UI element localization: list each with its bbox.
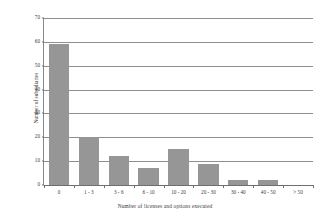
- bar-cell: [134, 18, 164, 185]
- plot-area: 010203040506070: [44, 18, 313, 185]
- y-axis-tick-label: 10: [35, 159, 40, 164]
- x-axis-tick-label: 10 - 20: [164, 189, 194, 195]
- x-axis-tick-label: 6 - 10: [134, 189, 164, 195]
- y-axis-tick-label: 40: [35, 87, 40, 92]
- x-axis-tick-label: 40 - 50: [253, 189, 283, 195]
- x-axis-tickmark: [313, 185, 314, 188]
- x-axis-tick-label: 3 - 6: [104, 189, 134, 195]
- bar: [198, 164, 218, 185]
- x-axis-tick-label: 30 - 40: [223, 189, 253, 195]
- y-axis-tick-label: 30: [35, 111, 40, 116]
- x-axis-tickmarks: [44, 185, 313, 188]
- x-axis-tick-label: 20 - 30: [193, 189, 223, 195]
- x-axis-title: Number of licenses and options executed: [0, 203, 330, 210]
- bar-cell: [193, 18, 223, 185]
- x-axis-tick-labels: 01 - 33 - 66 - 1010 - 2020 - 3030 - 4040…: [44, 189, 313, 195]
- x-axis-tick-label: 1 - 3: [74, 189, 104, 195]
- y-axis-tick-label: 20: [35, 135, 40, 140]
- bar-series: [44, 18, 313, 185]
- x-axis-tickmark: [164, 185, 165, 188]
- bar-cell: [104, 18, 134, 185]
- bar-cell: [283, 18, 313, 185]
- bar: [168, 149, 188, 185]
- bar-cell: [253, 18, 283, 185]
- x-axis-tick-label: > 50: [283, 189, 313, 195]
- x-axis-tick-label: 0: [44, 189, 74, 195]
- x-axis-tickmark: [134, 185, 135, 188]
- y-axis-tick-label: 70: [35, 15, 40, 20]
- y-axis-tick-label: 60: [35, 39, 40, 44]
- x-axis: 01 - 33 - 66 - 1010 - 2020 - 3030 - 4040…: [44, 185, 313, 201]
- bar: [109, 156, 129, 185]
- x-axis-tickmark: [44, 185, 45, 188]
- x-axis-tickmark: [104, 185, 105, 188]
- y-axis-tick-label: 0: [37, 182, 40, 187]
- x-axis-tickmark: [74, 185, 75, 188]
- bar-cell: [164, 18, 194, 185]
- y-axis-tick-label: 50: [35, 63, 40, 68]
- x-axis-tickmark: [193, 185, 194, 188]
- bar: [49, 44, 69, 185]
- x-axis-tickmark: [223, 185, 224, 188]
- bar-cell: [223, 18, 253, 185]
- bar: [138, 168, 158, 185]
- x-axis-tickmark: [253, 185, 254, 188]
- histogram-chart: Number of subsidiaries 010203040506070 0…: [0, 0, 330, 221]
- bar: [79, 137, 99, 185]
- x-axis-tickmark: [283, 185, 284, 188]
- bar-cell: [44, 18, 74, 185]
- bar-cell: [74, 18, 104, 185]
